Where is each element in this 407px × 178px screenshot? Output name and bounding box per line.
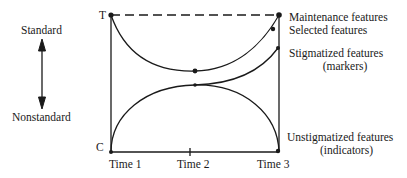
nonstandard-label: Nonstandard bbox=[12, 111, 71, 123]
selected-features-curve bbox=[111, 15, 279, 71]
selected-features-label: Selected features bbox=[289, 24, 367, 36]
time-3-label: Time 3 bbox=[257, 158, 290, 170]
stigmatized-features-curve bbox=[195, 48, 278, 85]
time-2-label: Time 2 bbox=[177, 158, 210, 170]
maintenance-features-label: Maintenance features bbox=[289, 11, 388, 23]
top-marker-t: T bbox=[99, 9, 106, 21]
double-arrow-icon bbox=[39, 39, 46, 109]
unstigmatized-features-label: Unstigmatized features bbox=[287, 131, 393, 143]
bottom-marker-c: C bbox=[96, 141, 104, 153]
unstigmatized-features-curve bbox=[111, 85, 279, 152]
stigmatized-features-label: Stigmatized features bbox=[289, 47, 383, 59]
standard-label: Standard bbox=[21, 24, 62, 36]
stigmatized-features-sublabel: (markers) bbox=[289, 60, 401, 72]
unstigmatized-features-sublabel: (indicators) bbox=[287, 144, 406, 156]
time-1-label: Time 1 bbox=[109, 158, 142, 170]
point-markers bbox=[108, 12, 281, 154]
